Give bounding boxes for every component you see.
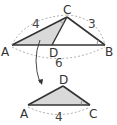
arrowhead [38,79,43,85]
side-label-ac-bottom: 4 [55,110,63,124]
side-label-ac: 4 [32,17,40,31]
vertex-label-a: A [1,45,10,59]
side-label-cb: 3 [88,17,96,31]
bottom-triangle-figure: A D C 4 [20,73,97,124]
top-triangle-figure: A B C D 4 3 6 [1,3,113,70]
vertex-label-c: C [63,3,71,17]
vertex-label-d-bottom: D [59,73,68,87]
vertex-label-c-bottom: C [89,107,97,121]
vertex-label-b: B [105,45,113,59]
vertex-label-a-bottom: A [20,107,29,121]
similar-triangles-diagram: A B C D 4 3 6 A D C 4 [0,0,117,125]
transform-arrow [36,40,40,83]
side-label-ab: 6 [55,56,63,70]
